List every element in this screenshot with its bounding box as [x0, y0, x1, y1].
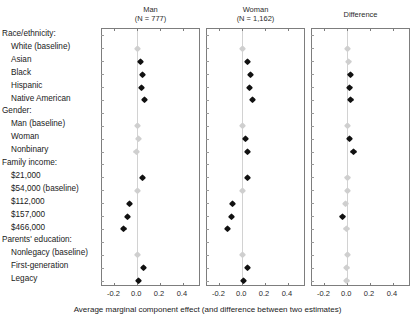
estimate-marker	[242, 48, 243, 49]
row-label: Woman	[0, 131, 39, 144]
point-estimate	[344, 277, 350, 283]
estimate-marker	[243, 280, 244, 281]
x-tick	[393, 283, 394, 286]
estimate-marker	[349, 87, 350, 88]
row-label: White (baseline)	[0, 41, 70, 54]
row-label: $112,000	[0, 196, 45, 209]
y-tick	[101, 177, 104, 178]
panel-title-difference-label: Difference	[343, 10, 377, 19]
point-estimate	[228, 213, 234, 219]
y-tick	[206, 242, 209, 243]
y-tick	[311, 61, 314, 62]
x-tick	[219, 283, 220, 286]
y-tick	[206, 216, 209, 217]
row-label: $54,000 (baseline)	[0, 183, 79, 196]
y-tick	[311, 281, 314, 282]
point-estimate	[244, 58, 250, 64]
row-label: Asian	[0, 54, 31, 67]
row-label: $21,000	[0, 170, 41, 183]
x-tick-label: 0.4	[282, 289, 292, 298]
estimate-marker	[143, 267, 144, 268]
y-tick	[206, 61, 209, 62]
point-estimate	[247, 71, 253, 77]
x-tick	[324, 283, 325, 286]
y-tick	[101, 139, 104, 140]
y-tick	[101, 229, 104, 230]
zero-reference-line	[347, 29, 348, 285]
point-estimate	[343, 226, 349, 232]
estimate-marker	[231, 216, 232, 217]
zero-reference-line	[137, 29, 138, 285]
y-tick	[101, 48, 104, 49]
y-tick	[311, 242, 314, 243]
estimate-marker	[250, 74, 251, 75]
x-tick-label: -0.2	[212, 289, 225, 298]
estimate-marker	[242, 254, 243, 255]
panel-man	[101, 28, 200, 286]
y-tick	[101, 152, 104, 153]
x-tick	[114, 28, 115, 31]
x-tick	[393, 28, 394, 31]
point-estimate	[134, 45, 140, 51]
point-estimate	[244, 174, 250, 180]
y-tick	[206, 74, 209, 75]
y-tick	[101, 216, 104, 217]
point-estimate	[239, 187, 245, 193]
estimate-marker	[123, 228, 124, 229]
y-tick	[101, 268, 104, 269]
estimate-marker	[353, 151, 354, 152]
y-tick	[101, 203, 104, 204]
x-axis-caption: Average marginal component effect (and d…	[0, 305, 415, 314]
point-estimate	[339, 213, 345, 219]
estimate-marker	[346, 267, 347, 268]
estimate-marker	[142, 177, 143, 178]
y-tick	[101, 255, 104, 256]
y-tick	[311, 216, 314, 217]
estimate-marker	[136, 151, 137, 152]
estimate-marker	[144, 99, 145, 100]
estimate-marker	[350, 74, 351, 75]
y-tick	[311, 203, 314, 204]
x-tick-label: 0.0	[341, 289, 351, 298]
y-tick	[206, 177, 209, 178]
point-estimate	[239, 45, 245, 51]
x-tick-label: 0.0	[131, 289, 141, 298]
point-estimate	[139, 71, 145, 77]
x-tick-label: -0.2	[107, 289, 120, 298]
estimate-marker	[347, 125, 348, 126]
panel-title-man-label: Man	[143, 5, 158, 14]
point-estimate	[140, 264, 146, 270]
row-label: Black	[0, 67, 31, 80]
y-tick	[311, 177, 314, 178]
panel-title-man: Man(N = 777)	[101, 5, 200, 23]
y-tick	[206, 281, 209, 282]
y-tick	[101, 164, 104, 165]
point-estimate	[347, 97, 353, 103]
estimate-marker	[252, 99, 253, 100]
estimate-marker	[227, 228, 228, 229]
row-group-label: Race/ethnicity:	[0, 28, 56, 41]
row-label: Man (baseline)	[0, 118, 65, 131]
x-tick-label: 0.4	[177, 289, 187, 298]
estimate-marker	[142, 74, 143, 75]
x-tick-label: 0.2	[364, 289, 374, 298]
point-estimate	[121, 226, 127, 232]
point-estimate	[344, 187, 350, 193]
point-estimate	[350, 148, 356, 154]
row-label: Nonbinary	[0, 144, 48, 157]
y-tick	[206, 139, 209, 140]
estimate-marker	[141, 87, 142, 88]
estimate-marker	[350, 99, 351, 100]
y-tick	[206, 87, 209, 88]
x-tick	[324, 28, 325, 31]
point-estimate	[137, 58, 143, 64]
x-tick-label: -0.2	[317, 289, 330, 298]
x-tick	[347, 28, 348, 31]
y-tick	[101, 87, 104, 88]
y-tick	[311, 152, 314, 153]
estimate-marker	[347, 254, 348, 255]
x-tick-label: 0.4	[387, 289, 397, 298]
row-label: $157,000	[0, 209, 45, 222]
panel-title-woman: Woman(N = 1,162)	[206, 5, 305, 23]
x-tick	[242, 28, 243, 31]
